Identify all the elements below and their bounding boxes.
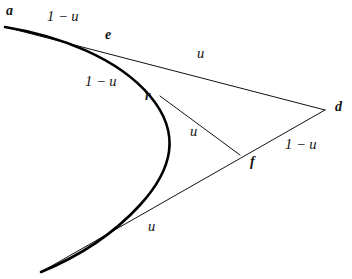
ratio-label-a-e: 1 − u: [47, 9, 79, 24]
diagram-canvas: a e r f d 1 − u 1 − u u u 1 − u u: [0, 0, 352, 279]
ratio-label-e-r: 1 − u: [85, 74, 117, 89]
ratio-label-r-f: u: [190, 124, 197, 139]
point-label-d: d: [335, 100, 342, 114]
middle-chord-line: [160, 96, 240, 155]
ratio-label-b-f: u: [148, 219, 155, 234]
chord-group: [5, 27, 325, 272]
point-label-r: r: [145, 89, 150, 103]
lower-chord-line: [41, 110, 325, 272]
point-label-f: f: [250, 155, 255, 169]
ratio-label-f-d: 1 − u: [285, 137, 317, 152]
ratio-label-e-d: u: [197, 46, 204, 61]
point-label-e: e: [105, 28, 111, 42]
point-label-a: a: [6, 4, 13, 18]
